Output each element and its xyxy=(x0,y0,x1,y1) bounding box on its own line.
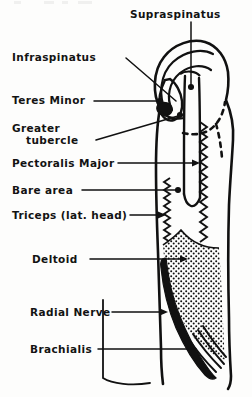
marker-supraspinatus xyxy=(189,85,194,90)
label-deltoid: Deltoid xyxy=(32,253,78,265)
label-radial-nerve: Radial Nerve xyxy=(30,306,110,318)
marker-teres-minor xyxy=(158,99,163,104)
label-infraspinatus: Infraspinatus xyxy=(12,51,96,63)
label-brachialis: Brachialis xyxy=(30,343,92,355)
marker-greater-tubercle xyxy=(178,113,183,118)
scan-artifact xyxy=(14,1,21,4)
teres-minor-facet xyxy=(157,103,172,116)
scan-artifact xyxy=(62,1,68,4)
label-greater-tubercle-line1: Greater xyxy=(12,122,60,134)
label-teres-minor: Teres Minor xyxy=(12,94,85,106)
label-supraspinatus: Supraspinatus xyxy=(130,8,221,20)
label-greater-tubercle-line2: tubercle xyxy=(12,134,78,146)
scan-artifact xyxy=(44,1,54,4)
label-bare-area: Bare area xyxy=(12,184,73,196)
label-pectoralis-major: Pectoralis Major xyxy=(12,157,115,169)
marker-bare-area xyxy=(176,188,181,193)
scan-artifact xyxy=(78,1,92,4)
label-triceps-lateral-head: Triceps (lat. head) xyxy=(12,209,127,221)
